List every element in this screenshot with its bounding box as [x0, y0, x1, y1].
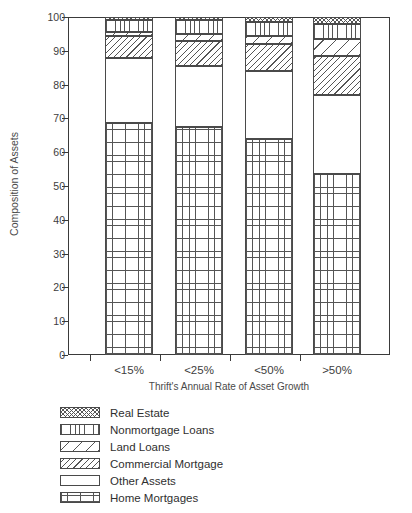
y-axis-tick-label: 70 — [25, 113, 65, 123]
legend-item-label: Other Assets — [110, 475, 176, 487]
y-axis-tick-label: 0 — [25, 350, 65, 360]
bar-segment — [245, 139, 293, 355]
legend-swatch-grid — [60, 492, 100, 503]
bar-segment — [313, 17, 361, 24]
legend-item: Nonmortgage Loans — [60, 421, 400, 438]
bar-segment — [175, 41, 223, 66]
legend-item-label: Land Loans — [110, 441, 170, 453]
y-axis-tick-label: 20 — [25, 282, 65, 292]
y-axis-title: Composition of Assets — [8, 84, 20, 284]
bar-segment — [175, 127, 223, 355]
bar-segment — [175, 66, 223, 127]
bar-segment — [175, 20, 223, 34]
bar-segment — [105, 36, 153, 57]
legend-swatch-fine-crosshatch — [60, 407, 100, 418]
bar-segment — [313, 95, 361, 174]
x-axis-tick-mark — [230, 355, 231, 361]
y-axis-tick-label: 60 — [25, 147, 65, 157]
x-axis-tick-label: <25% — [164, 364, 234, 376]
bar-segment — [105, 58, 153, 124]
y-axis-tick-mark — [62, 118, 68, 119]
stacked-bar — [245, 17, 293, 355]
legend-swatch-sparse-diagonal — [60, 441, 100, 452]
x-axis-tick-label: >50% — [302, 364, 372, 376]
chart-legend: Real EstateNonmortgage LoansLand LoansCo… — [60, 404, 400, 506]
y-axis-tick-mark — [62, 287, 68, 288]
y-axis-tick-mark — [62, 321, 68, 322]
y-axis-tick-mark — [62, 220, 68, 221]
bar-segment — [313, 174, 361, 355]
stacked-bar — [105, 17, 153, 355]
x-axis-tick-mark — [160, 355, 161, 361]
y-axis-tick-label: 90 — [25, 46, 65, 56]
stacked-bar — [313, 17, 361, 355]
y-axis-tick-mark — [62, 254, 68, 255]
bar-segment — [175, 34, 223, 41]
bar-segment — [105, 17, 153, 20]
y-axis-tick-mark — [62, 152, 68, 153]
bar-segment — [105, 123, 153, 355]
stacked-bar — [175, 17, 223, 355]
y-axis-tick-mark — [62, 17, 68, 18]
legend-item-label: Nonmortgage Loans — [110, 424, 214, 436]
legend-item: Home Mortgages — [60, 489, 400, 506]
legend-item: Land Loans — [60, 438, 400, 455]
legend-swatch-vertical-lines — [60, 424, 100, 435]
bar-segment — [245, 22, 293, 36]
y-axis-tick-mark — [62, 355, 68, 356]
y-axis-tick-label: 30 — [25, 249, 65, 259]
x-axis-tick-label: <15% — [94, 364, 164, 376]
x-axis-tick-label: <50% — [234, 364, 304, 376]
bar-segment — [245, 71, 293, 139]
plot-area-wrapper: 0102030405060708090100 <15%<25%<50%>50% … — [0, 0, 412, 400]
bar-segment — [313, 39, 361, 56]
legend-item: Real Estate — [60, 404, 400, 421]
bar-segment — [105, 32, 153, 36]
legend-swatch-dense-diagonal — [60, 458, 100, 469]
bar-segment — [105, 20, 153, 32]
x-axis-title: Thrift's Annual Rate of Asset Growth — [68, 381, 390, 392]
y-axis-tick-label: 80 — [25, 80, 65, 90]
y-axis-tick-label: 40 — [25, 215, 65, 225]
y-axis-tick-mark — [62, 186, 68, 187]
legend-item: Other Assets — [60, 472, 400, 489]
legend-item: Commercial Mortgage — [60, 455, 400, 472]
legend-item-label: Commercial Mortgage — [110, 458, 223, 470]
bar-segment — [175, 17, 223, 20]
bar-segment — [245, 36, 293, 44]
x-axis-tick-mark — [90, 355, 91, 361]
legend-item-label: Real Estate — [110, 407, 169, 419]
chart-figure: 0102030405060708090100 <15%<25%<50%>50% … — [0, 0, 412, 513]
bar-segment — [313, 56, 361, 95]
bar-segment — [313, 24, 361, 39]
bar-segment — [245, 44, 293, 71]
legend-item-label: Home Mortgages — [110, 492, 198, 504]
y-axis-tick-label: 100 — [25, 12, 65, 22]
bar-segment — [245, 17, 293, 22]
y-axis-tick-mark — [62, 85, 68, 86]
y-axis-tick-mark — [62, 51, 68, 52]
legend-swatch-blank — [60, 475, 100, 486]
x-axis-tick-mark — [300, 355, 301, 361]
y-axis-tick-label: 50 — [25, 181, 65, 191]
y-axis-tick-label: 10 — [25, 316, 65, 326]
